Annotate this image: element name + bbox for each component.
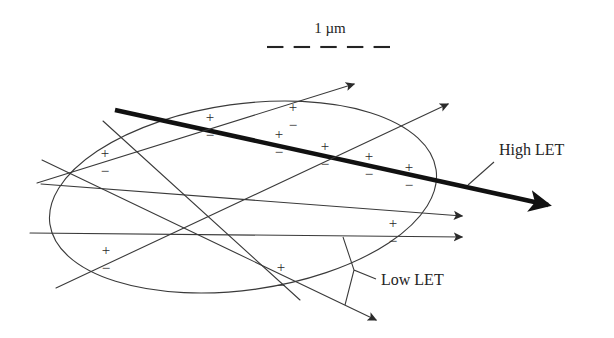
- ion-plus-glyph: +: [389, 215, 397, 231]
- track-low-let-track-5: [42, 160, 376, 320]
- ion-minus-glyph: −: [102, 260, 110, 276]
- track-low-let-track-3: [41, 184, 462, 216]
- leader-line-low-let: [343, 237, 376, 305]
- ion-plus-glyph: +: [206, 109, 214, 125]
- leader-line-high-let: [468, 162, 494, 185]
- ion-pair: +−: [389, 215, 397, 249]
- ion-minus-glyph: −: [277, 277, 285, 293]
- ion-minus-glyph: −: [389, 233, 397, 249]
- ion-plus-glyph: +: [101, 145, 109, 161]
- ion-plus-glyph: +: [277, 259, 285, 275]
- ion-plus-glyph: +: [405, 159, 413, 175]
- ion-minus-glyph: −: [365, 166, 373, 182]
- ion-plus-glyph: +: [289, 99, 297, 115]
- ion-pair: +−: [206, 109, 214, 143]
- let-track-diagram: 1 µm +−+−+−+−+−+−+−+−+−+− High LETLow LE…: [0, 0, 614, 338]
- ion-minus-glyph: −: [321, 156, 329, 172]
- ion-plus-glyph: +: [275, 126, 283, 142]
- label-low-let: Low LET: [381, 271, 444, 288]
- ion-plus-glyph: +: [321, 138, 329, 154]
- ion-pair: +−: [289, 99, 297, 133]
- label-high-let: High LET: [499, 141, 565, 159]
- figure-root: 1 µm +−+−+−+−+−+−+−+−+−+− High LETLow LE…: [0, 0, 614, 338]
- ion-minus-glyph: −: [206, 127, 214, 143]
- ionization-events: +−+−+−+−+−+−+−+−+−+−: [101, 99, 413, 293]
- ion-minus-glyph: −: [275, 144, 283, 160]
- ion-plus-glyph: +: [365, 148, 373, 164]
- scale-bar-label: 1 µm: [314, 20, 346, 36]
- ion-plus-glyph: +: [102, 242, 110, 258]
- scale-bar: 1 µm: [267, 20, 390, 47]
- track-low-let-track-6: [103, 121, 300, 300]
- track-low-let-track-1: [37, 84, 354, 183]
- ion-pair: +−: [102, 242, 110, 276]
- ion-minus-glyph: −: [405, 177, 413, 193]
- ion-minus-glyph: −: [101, 163, 109, 179]
- ion-minus-glyph: −: [289, 117, 297, 133]
